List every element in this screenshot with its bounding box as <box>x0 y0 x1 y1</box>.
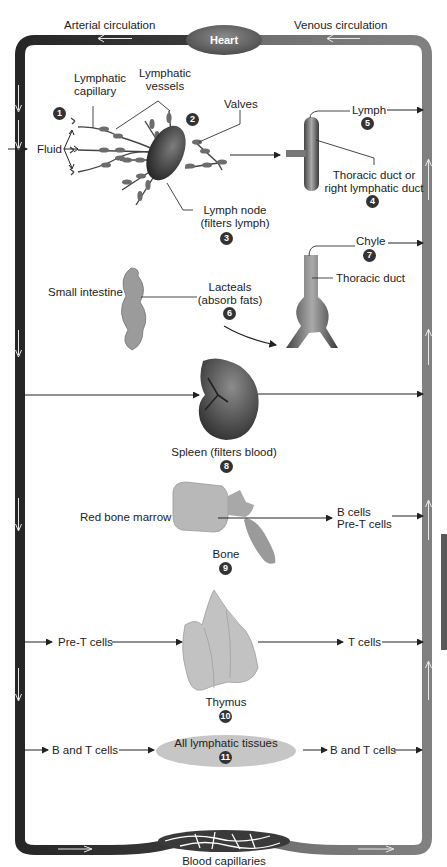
lymph-node-label-line1: Lymph node <box>195 204 275 217</box>
thymus-shape <box>183 590 258 690</box>
b-and-t-cells-in-label: B and T cells <box>52 744 118 757</box>
lymph-node-label-line2: (filters lymph) <box>195 217 275 230</box>
step-badge-1: 1 <box>53 107 66 120</box>
pre-t-cells-out-label: Pre-T cells <box>337 518 392 531</box>
b-and-t-cells-out-label: B and T cells <box>330 744 396 757</box>
thymus-label: Thymus <box>196 696 256 709</box>
bone-label: Bone <box>200 548 252 561</box>
t-cells-label: T cells <box>348 636 381 649</box>
thoracic-duct-tube <box>304 117 319 191</box>
step-badge-5: 5 <box>361 117 374 130</box>
lymphatic-vessels-label-line2: vessels <box>135 80 195 93</box>
lymph-label: Lymph <box>352 104 386 117</box>
thoracic-duct-label-line2: right lymphatic duct <box>318 182 430 195</box>
all-lymphatic-tissues-label: All lymphatic tissues <box>166 737 286 750</box>
step-badge-10: 10 <box>219 710 232 723</box>
heart-label: Heart <box>194 34 254 47</box>
thoracic-duct-2-label: Thoracic duct <box>336 272 405 285</box>
chyle-label: Chyle <box>356 235 385 248</box>
spleen-shape <box>199 358 259 440</box>
step-badge-4: 4 <box>366 195 379 208</box>
page-edge-tab <box>441 534 447 650</box>
lacteals-label-line1: Lacteals <box>196 281 264 294</box>
thoracic-duct-cisterna-shape <box>286 255 338 348</box>
lymphatic-capillary-label-line2: capillary <box>74 85 116 98</box>
pre-t-cells-in-label: Pre-T cells <box>58 636 113 649</box>
step-badge-7: 7 <box>363 249 376 262</box>
blood-capillaries-label: Blood capillaries <box>164 855 284 867</box>
red-bone-marrow-label: Red bone marrow <box>80 511 171 524</box>
step-badge-3: 3 <box>220 232 233 245</box>
step-badge-8: 8 <box>220 460 233 473</box>
vertebra-shape <box>173 482 228 532</box>
spleen-label: Spleen (filters blood) <box>164 446 284 459</box>
small-intestine-label: Small intestine <box>48 286 123 299</box>
step-badge-2: 2 <box>186 113 199 126</box>
step-badge-6: 6 <box>223 307 236 320</box>
venous-circulation-label: Venous circulation <box>294 19 387 32</box>
fluid-label: Fluid <box>37 143 62 156</box>
step-badge-11: 11 <box>219 751 232 764</box>
blood-capillaries-icon <box>158 830 290 852</box>
step-badge-9: 9 <box>219 562 232 575</box>
lymphatic-vessels-label-line1: Lymphatic <box>135 67 195 80</box>
arterial-circulation-label: Arterial circulation <box>64 19 155 32</box>
lacteals-label-line2: (absorb fats) <box>196 294 264 307</box>
lymph-node-shape <box>138 120 193 187</box>
thoracic-duct-label-line1: Thoracic duct or <box>320 169 428 182</box>
lymphatic-capillary-label-line1: Lymphatic <box>74 72 126 85</box>
valves-label: Valves <box>224 98 258 111</box>
small-intestine-shape <box>121 268 145 350</box>
